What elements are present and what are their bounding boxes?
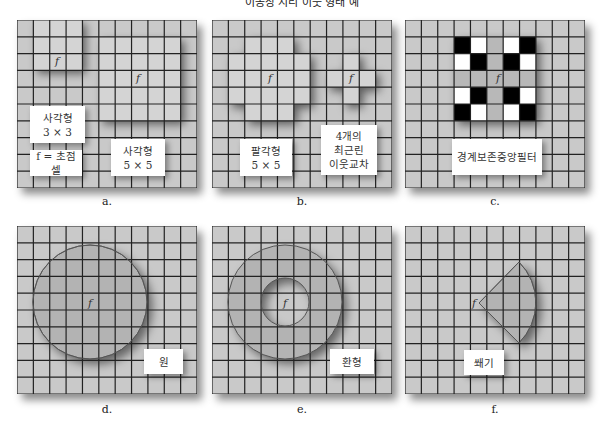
label-text: 사각형 (123, 144, 153, 158)
label-text: 경계보존중앙필터 (457, 150, 537, 164)
focal-cell-a2: f (136, 72, 140, 85)
label-focal-cell: f = 초점 셀 (30, 150, 82, 176)
caption-b: b. (212, 195, 392, 208)
focal-cell-e: f (283, 297, 287, 310)
label-text: 쐐기 (474, 356, 494, 370)
caption-d: d. (17, 403, 197, 416)
label-annulus: 환형 (330, 349, 374, 374)
caption-e: e. (212, 403, 392, 416)
label-text: 환형 (342, 355, 362, 369)
label-4-nearest-neighbors: 4개의 최근린 이웃교차 (321, 125, 377, 175)
label-text: 5 × 5 (252, 158, 281, 172)
label-circle: 원 (144, 349, 183, 374)
label-wedge: 쐐기 (464, 350, 504, 375)
label-square-3x3: 사각형 3 × 3 (30, 106, 85, 143)
label-text: 3 × 3 (43, 125, 72, 139)
focal-cell-a1: f (55, 55, 59, 68)
label-text: 사각형 (43, 111, 73, 125)
figure-title: 이동창 지리 이웃 형태 예 (0, 0, 604, 9)
label-text: 팔각형 (251, 144, 281, 158)
focal-cell-b1: f (268, 72, 272, 85)
label-text: 5 × 5 (124, 158, 153, 172)
label-text: 원 (159, 355, 169, 369)
caption-c: c. (405, 195, 585, 208)
label-square-5x5: 사각형 5 × 5 (111, 139, 165, 176)
caption-a: a. (17, 195, 197, 208)
label-text: f = 초점 셀 (30, 149, 82, 177)
label-edge-preserving-median-filter: 경계보존중앙필터 (452, 139, 542, 175)
label-text: 4개의 (336, 129, 363, 143)
label-octagon-5x5: 팔각형 5 × 5 (240, 139, 292, 176)
caption-f: f. (405, 403, 585, 416)
label-text: 최근린 (334, 143, 364, 157)
label-text: 이웃교차 (329, 157, 369, 171)
focal-cell-b2: f (349, 72, 353, 85)
focal-cell-d: f (88, 297, 92, 310)
focal-cell-c: f (496, 72, 500, 85)
focal-cell-f: f (472, 297, 476, 310)
